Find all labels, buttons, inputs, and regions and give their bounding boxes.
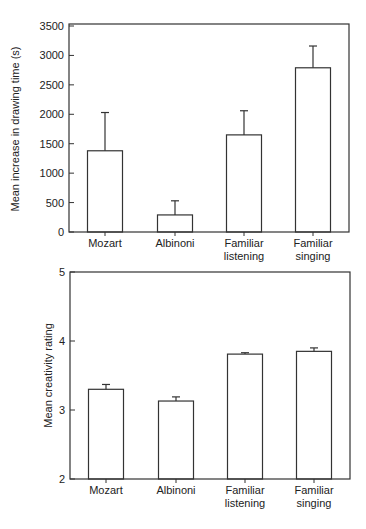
- bar-group: [228, 353, 263, 479]
- x-tick-label: singing: [296, 250, 331, 262]
- x-tick-label: Familiar: [224, 237, 263, 249]
- x-tick-label: listening: [224, 250, 264, 262]
- bar: [227, 135, 262, 232]
- bar-group: [88, 113, 123, 232]
- bar: [88, 151, 123, 232]
- bar: [296, 68, 331, 232]
- x-tick-label: Familiar: [294, 484, 333, 496]
- x-tick-label: Familiar: [225, 484, 264, 496]
- y-tick-label: 500: [46, 197, 64, 209]
- bar-group: [89, 384, 124, 479]
- drawing-time-chart: MozartAlbinoniFamiliarlisteningFamiliars…: [9, 20, 349, 262]
- x-tick-label: singing: [297, 497, 332, 509]
- y-tick-label: 2000: [40, 108, 64, 120]
- bar-group: [296, 46, 331, 232]
- x-tick-label: Familiar: [293, 237, 332, 249]
- figure: MozartAlbinoniFamiliarlisteningFamiliars…: [0, 0, 366, 529]
- y-tick-label: 3000: [40, 49, 64, 61]
- y-axis-label: Mean creativity rating: [42, 323, 54, 428]
- y-tick-label: 5: [59, 266, 65, 278]
- x-tick-label: Albinoni: [156, 484, 195, 496]
- y-tick-label: 0: [58, 226, 64, 238]
- bar-group: [227, 111, 262, 232]
- y-tick-label: 1000: [40, 167, 64, 179]
- creativity-rating-chart: MozartAlbinoniFamiliarlisteningFamiliars…: [42, 266, 350, 509]
- y-tick-label: 1500: [40, 138, 64, 150]
- y-tick-label: 3500: [40, 20, 64, 32]
- bar-group: [297, 348, 332, 479]
- y-tick-label: 2: [59, 473, 65, 485]
- y-tick-label: 2500: [40, 79, 64, 91]
- bar: [89, 389, 124, 479]
- x-tick-label: Mozart: [88, 237, 122, 249]
- bar-group: [159, 397, 194, 479]
- bar: [228, 354, 263, 479]
- bar-group: [158, 201, 193, 232]
- x-tick-label: Albinoni: [155, 237, 194, 249]
- y-tick-label: 3: [59, 404, 65, 416]
- y-tick-label: 4: [59, 335, 65, 347]
- bar: [297, 351, 332, 479]
- bar: [158, 215, 193, 232]
- bar: [159, 401, 194, 479]
- x-tick-label: listening: [225, 497, 265, 509]
- x-tick-label: Mozart: [89, 484, 123, 496]
- y-axis-label: Mean increase in drawing time (s): [9, 46, 21, 211]
